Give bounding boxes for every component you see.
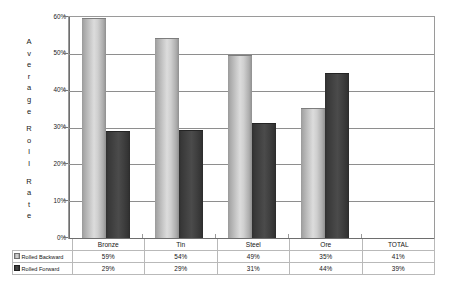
category-separator <box>142 234 143 238</box>
y-axis-tick-mark <box>63 127 68 128</box>
table-cell: 54% <box>145 251 218 263</box>
plot-area <box>68 16 435 239</box>
table-cell: 49% <box>217 251 290 263</box>
category-separator <box>361 234 362 238</box>
table-cell: 29% <box>145 263 218 275</box>
legend-swatch-icon <box>14 265 20 271</box>
table-header-row: BronzeTinSteelOreTOTAL <box>13 239 435 251</box>
table-column-header: Steel <box>217 239 290 251</box>
y-axis-tick-mark <box>63 53 68 54</box>
bar-rolled-backward <box>82 18 106 238</box>
table-row: Rolled Forward29%29%31%44%39% <box>13 263 435 275</box>
y-axis-tick-mark <box>63 200 68 201</box>
table-cell: 41% <box>362 251 435 263</box>
bars-layer <box>69 17 434 238</box>
y-axis-tick-mark <box>63 90 68 91</box>
table-cell: 59% <box>72 251 145 263</box>
category-separator <box>215 234 216 238</box>
y-axis-tick-mark <box>63 16 68 17</box>
bar-chart: Average Roll Rate 0%10%20%30%40%50%60% B… <box>0 0 453 284</box>
category-separator <box>288 234 289 238</box>
y-axis-title-letter: g <box>22 94 36 106</box>
y-axis-title-letter: R <box>22 123 36 135</box>
table-row-header: Rolled Forward <box>13 263 73 275</box>
table-cell: 39% <box>362 263 435 275</box>
y-axis-tick-labels: 0%10%20%30%40%50%60% <box>40 16 66 239</box>
bar-rolled-forward <box>252 123 276 238</box>
table-cell: 29% <box>72 263 145 275</box>
y-axis-title: Average Roll Rate <box>22 36 36 222</box>
data-table: BronzeTinSteelOreTOTALRolled Backward59%… <box>12 239 435 275</box>
table-cell: 31% <box>217 263 290 275</box>
table-cell: 35% <box>290 251 363 263</box>
legend-swatch-icon <box>14 253 20 259</box>
y-axis-title-letter: a <box>22 187 36 199</box>
bar-rolled-backward <box>301 108 325 238</box>
legend-label: Rolled Backward <box>22 254 64 260</box>
bar-rolled-forward <box>325 73 349 238</box>
y-axis-title-letter: o <box>22 135 36 147</box>
y-axis-title-letter: r <box>22 71 36 83</box>
table-row-header: Rolled Backward <box>13 251 73 263</box>
table-column-header: TOTAL <box>362 239 435 251</box>
y-axis-title-letter: v <box>22 48 36 60</box>
y-axis-tick-mark <box>63 237 68 238</box>
table-row: Rolled Backward59%54%49%35%41% <box>13 251 435 263</box>
table-column-header: Ore <box>290 239 363 251</box>
bar-rolled-forward <box>179 130 203 238</box>
y-axis-title-letter: e <box>22 59 36 71</box>
y-axis-title-letter: e <box>22 106 36 118</box>
y-axis-title-letter: A <box>22 36 36 48</box>
y-axis-title-letter: R <box>22 176 36 188</box>
y-axis-title-letter: l <box>22 146 36 158</box>
bar-rolled-backward <box>228 55 252 238</box>
y-axis-title-letter: t <box>22 199 36 211</box>
table-column-header: Bronze <box>72 239 145 251</box>
table-column-header: Tin <box>145 239 218 251</box>
y-axis-title-letter: a <box>22 82 36 94</box>
legend-label: Rolled Forward <box>22 266 60 272</box>
table-cell: 44% <box>290 263 363 275</box>
y-axis-title-letter: l <box>22 158 36 170</box>
y-axis-tick-mark <box>63 163 68 164</box>
table-corner-cell <box>13 239 73 251</box>
bar-rolled-backward <box>155 38 179 238</box>
y-axis-title-letter: e <box>22 210 36 222</box>
bar-rolled-forward <box>106 131 130 238</box>
